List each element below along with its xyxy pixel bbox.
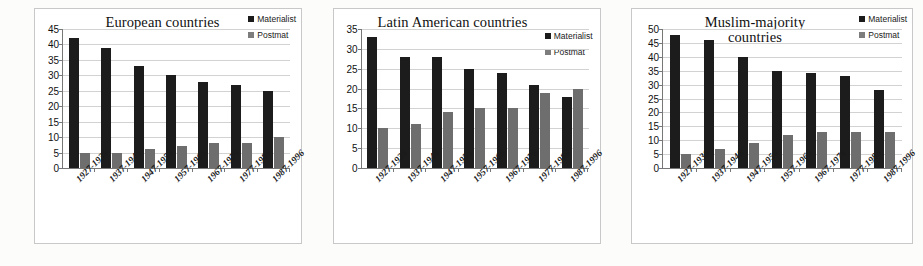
y-axis-tick-mark <box>59 168 63 169</box>
legend-item-materialist: Materialist <box>248 14 296 24</box>
bar-group <box>225 29 257 168</box>
bar-group <box>663 29 697 168</box>
y-axis-tick-label: 30 <box>346 43 357 54</box>
bar-postmat[interactable] <box>508 108 518 168</box>
y-axis-tick-label: 25 <box>48 85 59 96</box>
y-axis-tick-label: 10 <box>346 123 357 134</box>
plot-area: 051015202530354045 <box>62 29 290 169</box>
bar-group <box>556 29 588 168</box>
bar-group <box>160 29 192 168</box>
bar-groups <box>63 29 290 168</box>
y-axis-tick-mark <box>358 168 362 169</box>
bar-materialist[interactable] <box>367 37 377 168</box>
y-axis-tick-label: 20 <box>48 101 59 112</box>
plot-area: 05101520253035 <box>361 29 589 169</box>
bar-group <box>800 29 834 168</box>
bar-group <box>394 29 426 168</box>
y-axis-tick-label: 40 <box>48 39 59 50</box>
x-axis-labels: 1927-19361937-19461947-19561957-19661967… <box>62 173 290 233</box>
x-axis-label-cell: 1977-1986 <box>225 173 258 233</box>
x-axis-labels: 1927-19361937-19461947-19561957-19661967… <box>662 173 902 233</box>
bar-postmat[interactable] <box>443 112 453 168</box>
chart-title: Latin American countries <box>378 15 528 30</box>
y-axis-tick-label: 15 <box>48 116 59 127</box>
y-axis-tick-label: 25 <box>648 93 659 104</box>
y-axis-tick-label: 20 <box>346 83 357 94</box>
y-axis-tick-label: 45 <box>648 37 659 48</box>
x-axis-label-cell: 1957-1966 <box>765 173 799 233</box>
x-axis-label-cell: 1937-1946 <box>393 173 426 233</box>
x-axis-label-cell: 1927-1936 <box>361 173 394 233</box>
x-axis-labels: 1927-19361937-19461947-19561957-19661967… <box>361 173 589 233</box>
x-axis-label-cell: 1977-1986 <box>523 173 556 233</box>
bar-materialist[interactable] <box>670 35 680 168</box>
figure-sheet: European countries Materialist Postmat 0… <box>0 0 923 266</box>
bar-postmat[interactable] <box>475 108 485 168</box>
bar-group <box>524 29 556 168</box>
y-axis-tick-label: 45 <box>48 24 59 35</box>
bar-group <box>128 29 160 168</box>
bar-groups <box>362 29 589 168</box>
legend-label-materialist: Materialist <box>257 14 296 24</box>
bar-group <box>63 29 95 168</box>
x-axis-label-cell: 1957-1966 <box>160 173 193 233</box>
bar-group <box>426 29 458 168</box>
x-axis-label-cell: 1947-1956 <box>127 173 160 233</box>
chart-panel-european: European countries Materialist Postmat 0… <box>34 8 302 244</box>
x-axis-label-cell: 1967-1976 <box>491 173 524 233</box>
y-axis-tick-label: 30 <box>48 70 59 81</box>
x-axis-label-cell: 1987-1996 <box>556 173 589 233</box>
x-axis-label-cell: 1987-1996 <box>257 173 290 233</box>
legend-label-materialist: Materialist <box>868 14 907 24</box>
y-axis-tick-label: 15 <box>346 103 357 114</box>
bar-group <box>193 29 225 168</box>
bar-group <box>731 29 765 168</box>
x-axis-label-cell: 1947-1956 <box>426 173 459 233</box>
x-axis-label-cell: 1937-1946 <box>696 173 730 233</box>
x-axis-label-cell: 1937-1946 <box>95 173 128 233</box>
bar-materialist[interactable] <box>69 38 79 168</box>
bar-group <box>868 29 902 168</box>
x-axis-label-cell: 1967-1976 <box>192 173 225 233</box>
y-axis-tick-label: 35 <box>346 24 357 35</box>
y-axis-tick-label: 35 <box>48 54 59 65</box>
y-axis-tick-label: 10 <box>648 135 659 146</box>
x-axis-label-cell: 1927-1936 <box>62 173 95 233</box>
plot-area: 05101520253035404550 <box>662 29 902 169</box>
x-axis-label-cell: 1957-1966 <box>458 173 491 233</box>
y-axis-tick-mark <box>659 168 663 169</box>
bar-postmat[interactable] <box>573 89 583 168</box>
y-axis-tick-label: 40 <box>648 51 659 62</box>
y-axis-tick-label: 25 <box>346 63 357 74</box>
bar-group <box>362 29 394 168</box>
x-axis-label-cell: 1987-1996 <box>868 173 902 233</box>
bar-group <box>697 29 731 168</box>
chart-panel-latin-american: Latin American countries Materialist Pos… <box>333 8 601 244</box>
bar-group <box>765 29 799 168</box>
bar-group <box>258 29 290 168</box>
chart-title: European countries <box>95 15 230 30</box>
y-axis-tick-label: 30 <box>648 79 659 90</box>
x-axis-label-cell: 1967-1976 <box>799 173 833 233</box>
legend-swatch-materialist-icon <box>859 16 865 22</box>
bar-group <box>95 29 127 168</box>
bar-group <box>459 29 491 168</box>
bar-postmat[interactable] <box>540 93 550 168</box>
y-axis-tick-label: 20 <box>648 107 659 118</box>
x-axis-label-cell: 1927-1936 <box>662 173 696 233</box>
x-axis-label-cell: 1977-1986 <box>833 173 867 233</box>
y-axis-tick-label: 50 <box>648 24 659 35</box>
legend-item-materialist: Materialist <box>859 14 907 24</box>
x-axis-label-cell: 1947-1956 <box>731 173 765 233</box>
bar-group <box>834 29 868 168</box>
legend-swatch-materialist-icon <box>248 16 254 22</box>
y-axis-tick-label: 15 <box>648 121 659 132</box>
bar-group <box>491 29 523 168</box>
bar-groups <box>663 29 902 168</box>
y-axis-tick-label: 35 <box>648 65 659 76</box>
y-axis-tick-label: 10 <box>48 132 59 143</box>
chart-panel-muslim-majority: Muslim-majority countries Materialist Po… <box>631 8 913 244</box>
